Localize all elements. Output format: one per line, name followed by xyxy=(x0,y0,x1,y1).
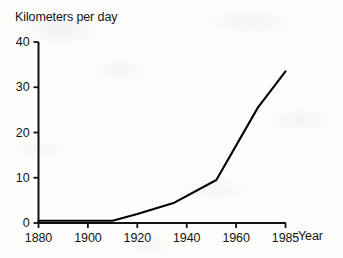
x-tick-label: 1920 xyxy=(124,231,151,245)
data-line-kilometers-per-day xyxy=(39,71,286,220)
y-tick-label: 20 xyxy=(0,126,30,140)
x-tick-label: 1985 xyxy=(272,231,299,245)
x-tick-label: 1880 xyxy=(25,231,52,245)
plot-area xyxy=(0,0,343,258)
x-tick-label: 1960 xyxy=(222,231,249,245)
line-chart: Kilometers per day Year 010203040 188019… xyxy=(0,0,343,258)
y-tick-label: 0 xyxy=(0,216,30,230)
y-tick-label: 40 xyxy=(0,35,30,49)
x-tick-label: 1900 xyxy=(74,231,101,245)
x-tick-label: 1940 xyxy=(173,231,200,245)
y-tick-label: 30 xyxy=(0,80,30,94)
y-tick-label: 10 xyxy=(0,171,30,185)
